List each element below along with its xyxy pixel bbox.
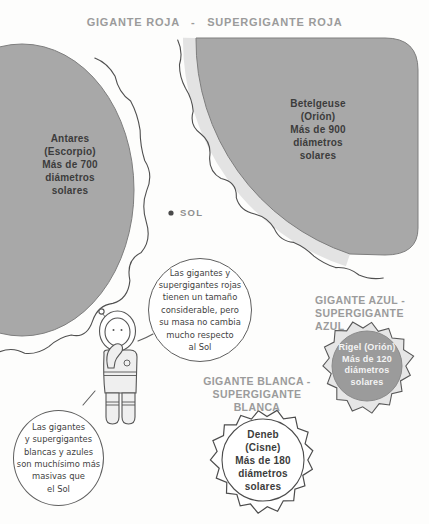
rigel-label: Rigel (Orión) Más de 120 diámetros solar… [327, 342, 407, 388]
astronaut-right-leg [122, 393, 135, 424]
left-eye [113, 329, 115, 331]
speech-bubble-red-giants-text: Las gigantes y supergigantes rojas tiene… [159, 267, 242, 354]
antares-star [0, 44, 150, 354]
deneb-label: Deneb (Cisne) Más de 180 diámetros solar… [213, 428, 313, 493]
speech-bubble-red-giants: Las gigantes y supergigantes rojas tiene… [148, 258, 252, 362]
speech-tail-white-blue-giants [83, 391, 95, 405]
astronaut-left-leg [106, 393, 119, 424]
face [105, 318, 130, 346]
speech-tail-red-giants [138, 334, 153, 341]
antenna-ball [99, 309, 104, 314]
betelgeuse-label: Betelgeuse (Orión) Más de 900 diámetros … [268, 97, 368, 162]
sun-dot [168, 210, 173, 215]
page-title: GIGANTE ROJA - SUPERGIGANTE ROJA [0, 16, 429, 28]
heading-white-giant: GIGANTE BLANCA - SUPERGIGANTE BLANCA [188, 375, 326, 414]
speech-bubble-white-blue-giants-text: Las gigantes y supergigantes blancas y a… [17, 421, 100, 495]
heading-blue-giant: GIGANTE AZUL - SUPERGIGANTE AZUL [315, 294, 429, 333]
speech-bubble-white-blue-giants: Las gigantes y supergigantes blancas y a… [13, 410, 104, 506]
red-giants-infographic: GIGANTE ROJA - SUPERGIGANTE ROJA Antares… [0, 0, 429, 524]
right-eye [121, 329, 123, 331]
astronaut-illustration [99, 309, 137, 424]
antares-label: Antares (Escorpio) Más de 700 diámetros … [18, 132, 122, 197]
sun-label: SOL [180, 207, 203, 218]
